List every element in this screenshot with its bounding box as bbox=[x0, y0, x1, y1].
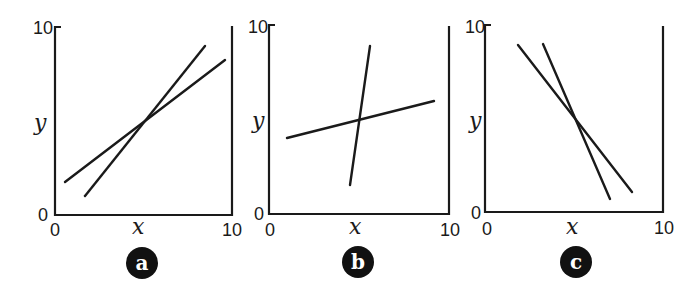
x-axis-label: x bbox=[132, 214, 145, 239]
y-tick-0: 0 bbox=[471, 203, 481, 223]
plot-lines bbox=[287, 46, 434, 185]
panel-badge-b: b bbox=[342, 246, 374, 278]
x-tick-10: 10 bbox=[654, 218, 674, 238]
y-axis-label: y bbox=[251, 108, 265, 133]
panel-badge-c: c bbox=[560, 246, 592, 278]
y-axis-label: y bbox=[468, 108, 482, 133]
panel-c: 10 0 0 10 y x c bbox=[465, 17, 674, 278]
y-axis-label: y bbox=[33, 110, 47, 135]
series-line-2 bbox=[543, 44, 610, 199]
x-axis-label: x bbox=[566, 214, 579, 239]
y-tick-10: 10 bbox=[465, 17, 485, 37]
series-line-2 bbox=[65, 60, 225, 182]
plot-lines bbox=[65, 46, 225, 196]
x-tick-10: 10 bbox=[440, 220, 460, 240]
x-tick-0: 0 bbox=[482, 219, 492, 239]
panel-badge-label: b bbox=[351, 250, 365, 274]
y-tick-0: 0 bbox=[38, 205, 48, 225]
x-axis-label: x bbox=[349, 214, 362, 239]
plot-lines bbox=[518, 44, 632, 199]
x-tick-0: 0 bbox=[265, 220, 275, 240]
y-tick-10: 10 bbox=[248, 17, 268, 37]
axes-frame bbox=[55, 26, 232, 215]
y-tick-0: 0 bbox=[254, 204, 264, 224]
x-tick-10: 10 bbox=[222, 220, 242, 240]
panel-a: 10 0 0 10 y x a bbox=[33, 18, 242, 279]
y-tick-10: 10 bbox=[33, 18, 53, 38]
panel-b: 10 0 0 10 y x b bbox=[248, 17, 460, 278]
panel-badge-label: c bbox=[570, 250, 582, 274]
panel-badge-a: a bbox=[126, 247, 158, 279]
x-tick-0: 0 bbox=[50, 220, 60, 240]
figure: 10 0 0 10 y x a 10 0 0 10 y x b bbox=[0, 0, 699, 299]
series-line-1 bbox=[350, 46, 370, 185]
panel-badge-label: a bbox=[136, 251, 149, 275]
